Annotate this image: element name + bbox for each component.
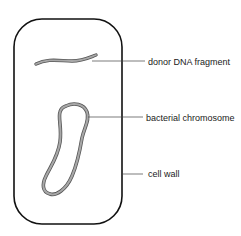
donor-dna-fragment [36, 55, 96, 64]
donor-dna-label: donor DNA fragment [148, 57, 231, 67]
cell-wall-label: cell wall [148, 169, 180, 179]
chromosome-label: bacterial chromosome [146, 113, 235, 123]
cell-wall-outline [14, 19, 122, 224]
bacterial-cell-diagram: donor DNA fragment bacterial chromosome … [0, 0, 241, 236]
bacterial-chromosome [43, 104, 87, 194]
